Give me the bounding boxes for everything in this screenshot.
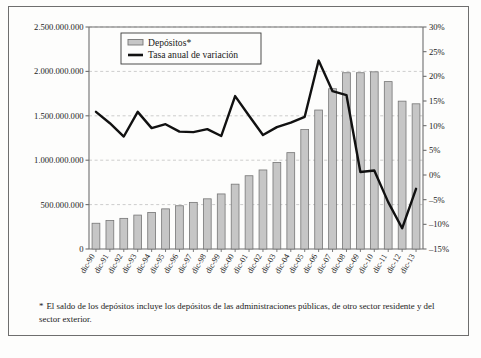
y-axis-right-tick-label: 15% bbox=[429, 96, 445, 106]
y-axis-right-tick-label: –5% bbox=[428, 195, 445, 205]
x-axis-tick-label: dic-13 bbox=[399, 253, 417, 276]
bar bbox=[120, 218, 128, 249]
bar bbox=[287, 153, 295, 249]
bar bbox=[315, 110, 323, 249]
legend-swatch-deposits bbox=[128, 40, 143, 46]
bar bbox=[148, 212, 156, 249]
variation-rate-line bbox=[96, 61, 416, 229]
y-axis-right-tick-label: 20% bbox=[429, 71, 445, 81]
bar bbox=[245, 176, 253, 249]
bar bbox=[162, 209, 170, 249]
bar bbox=[134, 215, 142, 249]
y-axis-left-tick-label: 0 bbox=[79, 244, 83, 254]
bar bbox=[189, 202, 197, 249]
y-axis-right-tick-label: 25% bbox=[429, 47, 445, 57]
bar bbox=[273, 162, 281, 249]
y-axis-right-tick-label: –10% bbox=[428, 219, 449, 229]
y-axis-left-tick-label: 2.500.000.000 bbox=[34, 22, 83, 32]
bar bbox=[92, 223, 100, 249]
bar bbox=[301, 130, 309, 249]
y-axis-right-tick-label: –15% bbox=[428, 244, 449, 254]
y-axis-right-tick-label: 0% bbox=[429, 170, 440, 180]
y-axis-right-tick-label: 5% bbox=[429, 145, 440, 155]
y-axis-right-tick-label: 30% bbox=[429, 22, 445, 32]
footnote: *El saldo de los depósitos incluye los d… bbox=[39, 300, 447, 325]
chart-frame: 0500.000.0001.000.000.0001.500.000.0002.… bbox=[8, 6, 469, 336]
y-axis-left-tick-label: 1.500.000.000 bbox=[34, 111, 83, 121]
y-axis-right-tick-label: 10% bbox=[429, 121, 445, 131]
chart-canvas: 0500.000.0001.000.000.0001.500.000.0002.… bbox=[9, 7, 468, 295]
bar bbox=[106, 221, 114, 249]
bar bbox=[217, 194, 225, 249]
y-axis-left-tick-label: 500.000.000 bbox=[41, 200, 84, 210]
legend-label-deposits: Depósitos* bbox=[148, 37, 191, 48]
y-axis-left-tick-label: 2.000.000.000 bbox=[34, 66, 83, 76]
legend-label-variation-rate: Tasa anual de variación bbox=[148, 49, 238, 60]
footnote-text: El saldo de los depósitos incluye los de… bbox=[39, 301, 434, 324]
bar bbox=[176, 206, 184, 249]
bar bbox=[259, 170, 267, 249]
bar bbox=[412, 104, 420, 249]
y-axis-left-tick-label: 1.000.000.000 bbox=[34, 155, 83, 165]
bar bbox=[203, 199, 211, 249]
bar bbox=[231, 184, 239, 249]
bar bbox=[370, 72, 378, 249]
bar bbox=[329, 89, 337, 249]
bar bbox=[384, 82, 392, 249]
footnote-marker: * bbox=[39, 301, 43, 311]
deposits-and-annual-variation-chart: 0500.000.0001.000.000.0001.500.000.0002.… bbox=[9, 7, 468, 295]
